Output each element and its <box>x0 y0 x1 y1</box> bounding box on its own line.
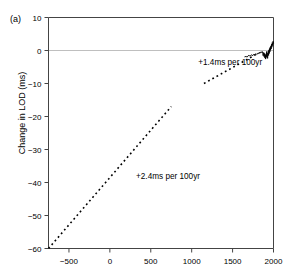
y-tick-label: −40 <box>28 179 42 188</box>
x-tick-label: 500 <box>144 257 158 266</box>
x-tick-label: 0 <box>108 257 113 266</box>
annotation-long-trend: +2.4ms per 100yr <box>136 172 200 181</box>
plot-frame <box>49 18 274 249</box>
data-series <box>49 41 274 248</box>
y-tick-label: 0 <box>37 47 42 56</box>
axis-frame <box>49 18 274 249</box>
annotation-recent-trend: +1.4ms per 100yr <box>198 58 262 67</box>
y-tick-label: −20 <box>28 113 42 122</box>
y-tick-label: −60 <box>28 245 42 254</box>
y-axis-ticks: 100−10−20−30−40−50−60 <box>28 14 49 254</box>
y-tick-label: −10 <box>28 80 42 89</box>
y-tick-label: −30 <box>28 146 42 155</box>
x-tick-label: 2000 <box>265 257 283 266</box>
x-tick-label: 1500 <box>224 257 242 266</box>
y-tick-label: 10 <box>33 14 42 23</box>
x-tick-label: −500 <box>60 257 79 266</box>
chart-annotations: +1.4ms per 100yr+2.4ms per 100yr <box>136 58 262 181</box>
chart-plot-area: −5000500100015002000 100−10−20−30−40−50−… <box>0 0 292 277</box>
figure-panel-a: (a) Change in LOD (ms) −5000500100015002… <box>0 0 292 277</box>
y-tick-label: −50 <box>28 212 42 221</box>
x-tick-label: 1000 <box>183 257 201 266</box>
x-axis-ticks: −5000500100015002000 <box>60 249 283 266</box>
